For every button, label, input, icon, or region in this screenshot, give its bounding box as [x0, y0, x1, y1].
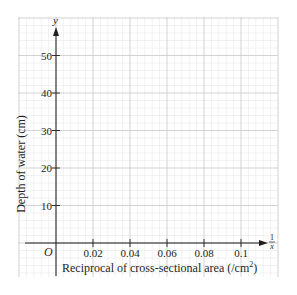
origin-label: O — [44, 245, 53, 259]
x-axis-label-close: ) — [253, 261, 257, 275]
minor-grid — [18, 17, 278, 277]
x-axis-label: Reciprocal of cross-sectional area (/cm2… — [62, 260, 257, 275]
y-axis-arrow-icon — [53, 27, 59, 36]
y-axis-label-text: Depth of water (cm) — [14, 115, 28, 213]
axes — [25, 27, 268, 276]
y-axis-ticks: 1020304050 — [41, 50, 60, 212]
x-tick-label: 0.02 — [83, 247, 102, 259]
y-axis-symbol: y — [52, 14, 58, 26]
x-axis-label-text: Reciprocal of cross-sectional area (/cm — [62, 261, 250, 275]
y-tick-label: 40 — [41, 87, 53, 99]
x-tick-label: 0.04 — [120, 247, 140, 259]
y-tick-label: 50 — [41, 50, 53, 62]
major-grid — [18, 17, 278, 277]
chart-container: 0.020.040.060.080.1 1020304050 O y 1 x D… — [0, 0, 297, 295]
x-tick-label: 0.1 — [234, 247, 248, 259]
y-tick-label: 20 — [41, 162, 53, 174]
y-tick-label: 10 — [41, 200, 53, 212]
x-symbol-numerator: 1 — [270, 233, 274, 242]
x-symbol-denominator: x — [269, 242, 274, 251]
x-axis-arrow-icon — [259, 240, 268, 246]
y-axis-label: Depth of water (cm) — [14, 115, 28, 213]
y-tick-label: 30 — [41, 125, 53, 137]
x-tick-label: 0.06 — [157, 247, 177, 259]
x-tick-label: 0.08 — [194, 247, 214, 259]
graph-paper-chart: 0.020.040.060.080.1 1020304050 O y 1 x D… — [0, 0, 297, 295]
